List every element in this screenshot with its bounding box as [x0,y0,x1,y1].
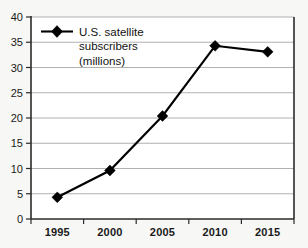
y-tick-label-20: 20 [11,112,23,124]
legend-label-line-1: U.S. satellite [79,26,144,38]
y-tick-label-40: 40 [11,11,23,23]
y-tick-label-15: 15 [11,137,23,149]
y-tick-label-35: 35 [11,36,23,48]
y-tick-label-25: 25 [11,87,23,99]
legend-label-line-3: (millions) [79,55,125,67]
y-tick-label-30: 30 [11,62,23,74]
x-tick-label-1995: 1995 [45,226,70,238]
chart-canvas: 40 35 30 25 20 15 10 5 0 1995 2000 2005 … [0,0,308,248]
legend-label-line-2: subscribers [79,40,138,52]
y-tick-label-0: 0 [17,213,23,225]
y-tick-label-10: 10 [11,163,23,175]
x-tick-label-2015: 2015 [255,226,280,238]
x-tick-label-2005: 2005 [150,226,175,238]
line-chart: 40 35 30 25 20 15 10 5 0 1995 2000 2005 … [0,0,308,248]
x-tick-label-2010: 2010 [202,226,227,238]
x-tick-label-2000: 2000 [97,226,122,238]
y-tick-label-5: 5 [17,188,23,200]
